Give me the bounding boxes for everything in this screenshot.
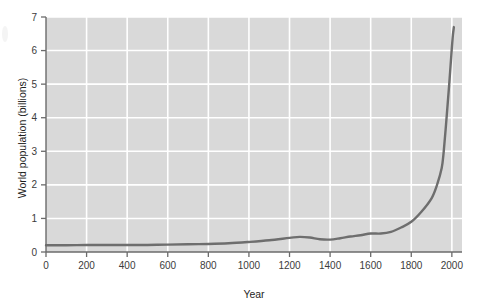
- x-axis-tick-label: 600: [159, 260, 176, 271]
- x-axis-tick-label: 1800: [400, 260, 423, 271]
- y-axis-tick-label: 5: [31, 79, 37, 90]
- x-axis-tick-label: 400: [119, 260, 136, 271]
- x-axis-tick-labels: 0200400600800100012001400160018002000: [43, 260, 463, 271]
- y-axis-tick-label: 2: [31, 179, 37, 190]
- plot-background: [46, 17, 462, 252]
- y-axis-tick-labels: 01234567: [31, 12, 37, 258]
- y-axis-tick-label: 3: [31, 146, 37, 157]
- x-axis-tick-label: 800: [200, 260, 217, 271]
- y-axis-tick-label: 1: [31, 213, 37, 224]
- x-axis-tick-label: 2000: [441, 260, 464, 271]
- y-axis-tick-label: 0: [31, 247, 37, 258]
- x-axis-tick-label: 0: [43, 260, 49, 271]
- y-axis-tick-label: 6: [31, 45, 37, 56]
- y-axis-tick-label: 7: [31, 12, 37, 23]
- x-axis-tick-label: 1000: [238, 260, 261, 271]
- x-axis-tick-label: 1600: [360, 260, 383, 271]
- x-axis-tick-label: 1400: [319, 260, 342, 271]
- y-axis-ticks: [41, 17, 46, 252]
- chart-svg: 0200400600800100012001400160018002000 01…: [0, 0, 480, 305]
- y-axis-title: World population (billions): [16, 78, 28, 199]
- x-axis-title: Year: [243, 288, 265, 300]
- x-axis-tick-label: 200: [78, 260, 95, 271]
- x-axis-ticks: [46, 252, 452, 257]
- plot-area-group: [46, 17, 462, 252]
- y-axis-tick-label: 4: [31, 112, 37, 123]
- population-chart-figure: 0200400600800100012001400160018002000 01…: [0, 0, 480, 305]
- x-axis-tick-label: 1200: [278, 260, 301, 271]
